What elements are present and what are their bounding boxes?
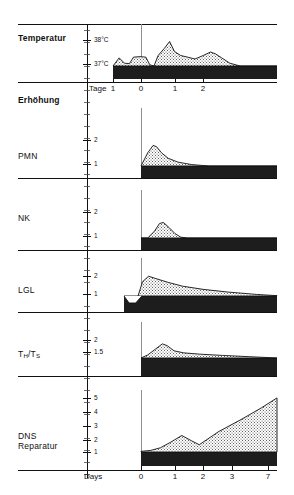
y-tick-label: 3 [94, 422, 98, 429]
x-tick-label-tage: 2 [196, 84, 210, 93]
row-label-dns-reparatur: DNS Reparatur [18, 432, 58, 452]
x-tick-label-tage: 0 [134, 84, 148, 93]
area-curve-temperatur [113, 42, 277, 67]
row-label-pmn: PMN [18, 152, 38, 162]
x-axis-name-days: Days [84, 472, 102, 481]
row-label-th-ts: TH/TS [18, 350, 40, 360]
y-tick-label: 1 [94, 160, 98, 167]
x-axis-name-tage: Tage [89, 84, 106, 93]
row-label-temperatur: Temperatur [18, 34, 66, 44]
baseline-band-temperatur [113, 66, 277, 79]
x-tick-label-days: 1 [168, 472, 182, 481]
y-tick-label: 1 [94, 448, 98, 455]
y-tick-label: 1 [94, 232, 98, 239]
baseline-band-th-ts [141, 358, 277, 376]
chart-canvas [0, 0, 294, 495]
baseline-band-nk [141, 238, 277, 250]
y-tick-label: 2 [94, 136, 98, 143]
row-label-nk: NK [18, 214, 30, 224]
y-tick-label: 1.5 [94, 348, 103, 355]
area-curve-dns-reparatur [141, 398, 277, 452]
x-tick-label-days: 7 [261, 472, 275, 481]
area-curve-nk [141, 222, 277, 238]
y-tick-label: 2 [94, 436, 98, 443]
y-tick-label: 4 [94, 408, 98, 415]
area-curve-th-ts [141, 344, 277, 358]
y-tick-label: 2 [94, 336, 98, 343]
section-header-erhoehung: Erhöhung [18, 96, 60, 106]
area-curve-pmn [141, 145, 277, 166]
y-tick-label: 38°C [94, 36, 109, 43]
immune-response-figure: 38°C37°C21212121.554321TemperaturPMNNKLG… [0, 0, 294, 495]
baseline-band-pmn [141, 166, 277, 178]
y-tick-label: 2 [94, 208, 98, 215]
x-tick-label-tage: 1 [106, 84, 120, 93]
x-tick-label-days: 0 [134, 472, 148, 481]
y-tick-label: 1 [94, 290, 98, 297]
x-tick-label-days: 3 [225, 472, 239, 481]
x-tick-label-days: 2 [196, 472, 210, 481]
baseline-band-dns-reparatur [141, 452, 277, 466]
row-label-lgl: LGL [18, 286, 35, 296]
y-tick-label: 5 [94, 394, 98, 401]
y-tick-label: 2 [94, 272, 98, 279]
y-tick-label: 37°C [94, 60, 109, 67]
baseline-band-lgl [124, 296, 277, 312]
x-tick-label-tage: 1 [168, 84, 182, 93]
